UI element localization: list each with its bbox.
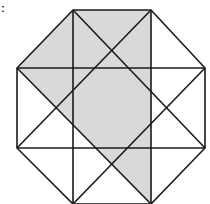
octagon-figure [0, 0, 210, 204]
shaded-region [17, 10, 151, 204]
